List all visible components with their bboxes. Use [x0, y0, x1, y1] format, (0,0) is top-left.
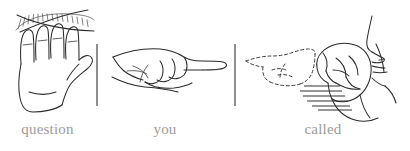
- sign-language-figure: question you called: [0, 0, 410, 151]
- panel-caption-called: called: [236, 119, 410, 139]
- hatch-arc-icon: [16, 14, 94, 30]
- thumb-crease-icon: [127, 65, 148, 82]
- panel-caption-you: you: [96, 119, 234, 139]
- motion-lines-icon: [300, 86, 352, 110]
- panel-you-artwork: [112, 49, 227, 92]
- panel-question-artwork: [16, 10, 94, 112]
- panel-called-artwork: [246, 16, 396, 121]
- fist-icon: [317, 43, 371, 102]
- panel-caption-question: question: [0, 119, 95, 139]
- finger-crease-icon: [23, 38, 77, 45]
- open-hand-icon: [19, 24, 92, 112]
- face-profile-icon: [367, 16, 396, 103]
- ghost-pointing-hand-icon: [246, 49, 315, 86]
